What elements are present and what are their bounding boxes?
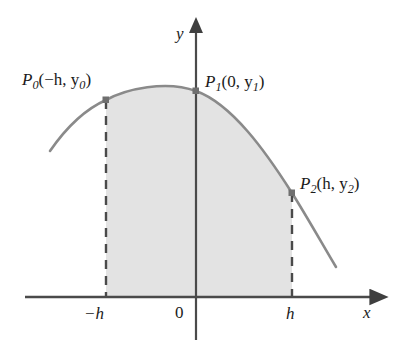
point-marker-p1 [193,88,200,95]
point-label-p1-base: P [205,72,215,91]
axis-label-x: x [363,304,371,321]
tick-label-neg-h: −h [84,305,104,322]
point-label-p2-subscript: 2 [310,182,316,196]
figure-canvas: P0(−h, y0) P1(0, y1) P2(h, y2) −h 0 h x … [0,0,395,348]
point-label-p1-arg-subscript: 1 [253,80,259,94]
tick-label-pos-h: h [286,305,295,322]
axis-label-y: y [176,25,184,42]
point-label-p1-subscript: 1 [215,80,221,94]
point-label-p0-arg-subscript: 0 [79,78,85,92]
point-label-p1-close: ) [259,72,265,91]
point-label-p2-arg-subscript: 2 [348,182,354,196]
point-label-p0-args: (−h, y [39,70,80,89]
point-label-p2-base: P [300,174,310,193]
point-label-p0-close: ) [85,70,91,89]
point-label-p0: P0(−h, y0) [22,71,91,88]
point-label-p2-args: (h, y [317,174,348,193]
point-label-p1-args: (0, y [222,72,253,91]
point-marker-p2 [289,190,296,197]
point-label-p0-base: P [22,70,32,89]
point-marker-p0 [103,97,110,104]
point-label-p0-subscript: 0 [32,78,38,92]
shaded-region [106,86,292,297]
point-label-p2: P2(h, y2) [300,175,359,192]
point-label-p1: P1(0, y1) [205,73,264,90]
tick-label-origin: 0 [175,304,184,321]
point-label-p2-close: ) [354,174,360,193]
